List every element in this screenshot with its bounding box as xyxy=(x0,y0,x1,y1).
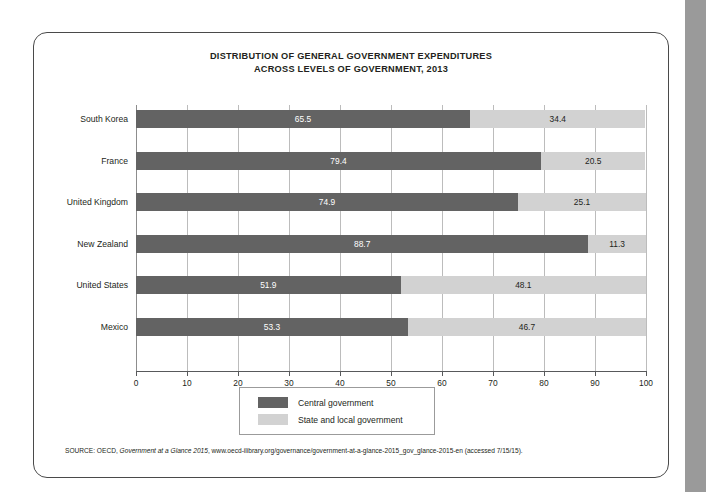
bar-segment-central: 88.7 xyxy=(136,235,588,253)
bar-segment-central: 74.9 xyxy=(136,193,518,211)
x-tick-label-60: 60 xyxy=(422,378,462,388)
legend-item-central: Central government xyxy=(258,395,434,410)
x-tick-label-10: 10 xyxy=(167,378,207,388)
category-label: France xyxy=(0,152,128,170)
category-label: Mexico xyxy=(0,318,128,336)
x-tick-label-40: 40 xyxy=(320,378,360,388)
bar-segment-state-local: 48.1 xyxy=(401,276,646,294)
bar-value-label: 88.7 xyxy=(136,235,588,253)
x-tick-10 xyxy=(187,372,188,376)
bar-row: New Zealand88.711.3 xyxy=(136,235,646,253)
source-note: SOURCE: OECD, Government at a Glance 201… xyxy=(65,446,654,455)
bar-value-label: 34.4 xyxy=(470,110,645,128)
x-tick-70 xyxy=(493,372,494,376)
x-tick-label-70: 70 xyxy=(473,378,513,388)
x-tick-label-80: 80 xyxy=(524,378,564,388)
bar-row: Mexico53.346.7 xyxy=(136,318,646,336)
bar-value-label: 65.5 xyxy=(136,110,470,128)
bar-segment-state-local: 11.3 xyxy=(588,235,646,253)
x-tick-label-0: 0 xyxy=(116,378,156,388)
chart-title: DISTRIBUTION OF GENERAL GOVERNMENT EXPEN… xyxy=(34,50,668,75)
x-tick-60 xyxy=(442,372,443,376)
bar-segment-state-local: 25.1 xyxy=(518,193,646,211)
category-label: New Zealand xyxy=(0,235,128,253)
x-tick-label-30: 30 xyxy=(269,378,309,388)
bar-segment-state-local: 34.4 xyxy=(470,110,645,128)
x-tick-40 xyxy=(340,372,341,376)
source-prefix: SOURCE: OECD, xyxy=(65,447,120,454)
chart-title-line1: DISTRIBUTION OF GENERAL GOVERNMENT EXPEN… xyxy=(210,51,492,61)
x-tick-50 xyxy=(391,372,392,376)
bar-segment-state-local: 20.5 xyxy=(541,152,646,170)
bar-value-label: 20.5 xyxy=(541,152,646,170)
category-label: United States xyxy=(0,276,128,294)
x-tick-80 xyxy=(544,372,545,376)
source-publication-title: Government at a Glance 2015 xyxy=(120,447,208,454)
chart-title-line2: ACROSS LEVELS OF GOVERNMENT, 2013 xyxy=(34,63,668,76)
bar-row: France79.420.5 xyxy=(136,152,646,170)
bar-segment-central: 53.3 xyxy=(136,318,408,336)
legend-item-state-local: State and local government xyxy=(258,412,434,427)
x-tick-label-50: 50 xyxy=(371,378,411,388)
x-tick-label-90: 90 xyxy=(575,378,615,388)
legend-label-state-local: State and local government xyxy=(298,415,403,425)
legend-swatch-central-icon xyxy=(258,397,288,408)
legend-label-central: Central government xyxy=(298,398,373,408)
bar-segment-central: 65.5 xyxy=(136,110,470,128)
bar-segment-central: 79.4 xyxy=(136,152,541,170)
x-tick-100 xyxy=(646,372,647,376)
page-gutter-bar xyxy=(685,0,706,492)
bar-value-label: 46.7 xyxy=(408,318,646,336)
category-label: South Korea xyxy=(0,110,128,128)
x-tick-20 xyxy=(238,372,239,376)
bar-row: South Korea65.534.4 xyxy=(136,110,646,128)
legend-swatch-state-local-icon xyxy=(258,414,288,425)
bar-row: United Kingdom74.925.1 xyxy=(136,193,646,211)
gridline-100 xyxy=(646,105,647,371)
bar-segment-central: 51.9 xyxy=(136,276,401,294)
chart-legend: Central government State and local gover… xyxy=(239,387,435,435)
bar-value-label: 48.1 xyxy=(401,276,646,294)
x-tick-90 xyxy=(595,372,596,376)
plot-area: South Korea65.534.4France79.420.5United … xyxy=(136,105,646,371)
bar-value-label: 11.3 xyxy=(588,235,646,253)
x-tick-30 xyxy=(289,372,290,376)
x-tick-0 xyxy=(136,372,137,376)
x-tick-label-100: 100 xyxy=(626,378,666,388)
figure-card: DISTRIBUTION OF GENERAL GOVERNMENT EXPEN… xyxy=(33,32,669,478)
bar-value-label: 51.9 xyxy=(136,276,401,294)
source-suffix: , www.oecd-ilibrary.org/governance/gover… xyxy=(208,447,523,454)
bar-value-label: 79.4 xyxy=(136,152,541,170)
bar-value-label: 74.9 xyxy=(136,193,518,211)
bar-value-label: 53.3 xyxy=(136,318,408,336)
x-tick-label-20: 20 xyxy=(218,378,258,388)
bar-row: United States51.948.1 xyxy=(136,276,646,294)
bar-segment-state-local: 46.7 xyxy=(408,318,646,336)
category-label: United Kingdom xyxy=(0,193,128,211)
bar-value-label: 25.1 xyxy=(518,193,646,211)
